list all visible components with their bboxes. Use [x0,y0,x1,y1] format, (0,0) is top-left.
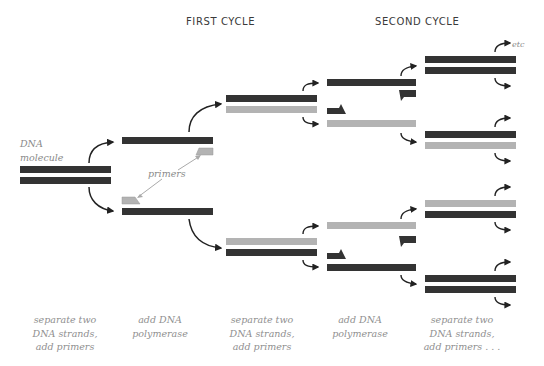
dark-strand [226,249,317,256]
curved-arrow-icon [303,117,318,124]
curved-arrow-icon [303,226,318,234]
primer-dark [327,249,346,259]
caption-line: DNA strands, [15,327,115,341]
curved-arrow-icon [495,297,510,305]
light-strand [226,238,317,245]
curved-arrow-icon [401,209,416,219]
light-strand [327,120,416,127]
light-strand [425,200,516,207]
pointer-head-icon [195,155,201,160]
dna-molecule [20,166,111,184]
dna-strand-bottom [20,177,111,184]
caption-line: add primers [15,340,115,354]
cycle1-separated [122,137,213,215]
cycle2-separated [327,79,416,271]
caption-line: polymerase [110,327,210,341]
caption-line: DNA strands, [412,327,512,341]
primer-dark [399,90,416,101]
dark-strand [425,56,516,63]
dark-strand [425,286,516,293]
curved-arrow-icon [401,275,416,284]
caption-line: add DNA [310,313,410,327]
curved-arrow-icon [495,118,510,127]
curved-arrow-icon [495,262,510,271]
caption-line: add primers . . . [412,340,512,354]
primer-pointer [138,179,162,197]
caption-step-5: separate two DNA strands, add primers . … [412,313,512,354]
curved-arrow-icon [495,153,510,161]
dark-strand [425,131,516,138]
caption-line: add primers [212,340,312,354]
light-strand [327,222,416,229]
dark-strand [226,95,317,102]
caption-line: separate two [15,313,115,327]
dark-strand [425,67,516,74]
light-strand [425,142,516,149]
template-strand [122,208,213,215]
dna-strand-top [20,166,111,173]
curved-arrow-icon [189,219,221,248]
caption-line: separate two [412,313,512,327]
curved-arrow-icon [303,260,318,267]
caption-step-1: separate two DNA strands, add primers [15,313,115,354]
caption-line: polymerase [310,327,410,341]
dark-strand [327,79,416,86]
pcr-diagram [0,0,544,366]
curved-arrow-icon [401,133,416,142]
pointer-head-icon [137,194,143,198]
curved-arrow-icon [401,66,416,76]
caption-step-4: add DNA polymerase [310,313,410,340]
light-strand [226,106,317,113]
primer-dark [327,104,346,114]
caption-line: add DNA [110,313,210,327]
template-strand [122,137,213,144]
curved-arrow-icon [495,187,510,196]
primer-light [122,197,140,204]
dark-strand [425,275,516,282]
curved-arrow-icon [89,142,113,163]
dark-strand [327,264,416,271]
curved-arrow-icon [495,222,510,230]
caption-line: DNA strands, [212,327,312,341]
cycle2-products [425,56,516,293]
curved-arrow-icon [303,83,318,91]
primer-dark [399,236,416,247]
curved-arrow-icon [89,187,113,211]
curved-arrow-icon [189,104,221,132]
dark-strand [425,211,516,218]
caption-line: separate two [212,313,312,327]
curved-arrow-icon [495,43,510,52]
caption-step-3: separate two DNA strands, add primers [212,313,312,354]
caption-step-2: add DNA polymerase [110,313,210,340]
curved-arrow-icon [495,78,510,86]
primer-light [196,148,213,155]
